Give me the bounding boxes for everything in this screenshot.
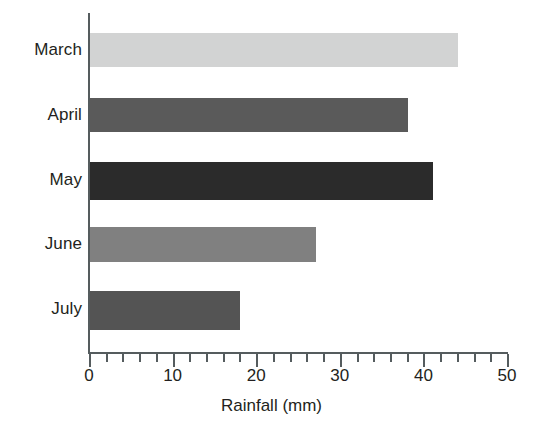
bar-march <box>90 33 458 67</box>
x-tick-44 <box>457 354 459 362</box>
x-tick-8 <box>156 354 158 362</box>
plot-area: MarchAprilMayJuneJuly 01020304050 Rainfa… <box>0 0 543 429</box>
x-tick-34 <box>373 354 375 362</box>
x-tick-42 <box>440 354 442 362</box>
x-tick-2 <box>106 354 108 362</box>
x-tick-14 <box>206 354 208 362</box>
category-label-march-wrap: March <box>0 40 82 60</box>
category-label-march: March <box>6 40 82 60</box>
category-label-may-wrap: May <box>0 170 82 190</box>
category-label-june-wrap: June <box>0 234 82 254</box>
category-label-june: June <box>6 234 82 254</box>
x-tick-28 <box>323 354 325 362</box>
x-tick-38 <box>407 354 409 362</box>
x-tick-label-20: 20 <box>226 366 286 386</box>
category-label-may: May <box>6 170 82 190</box>
rainfall-bar-chart: MarchAprilMayJuneJuly 01020304050 Rainfa… <box>0 0 543 429</box>
bar-april <box>90 98 408 132</box>
x-tick-label-0: 0 <box>59 366 119 386</box>
x-axis-line <box>88 352 508 354</box>
x-tick-label-10: 10 <box>143 366 203 386</box>
x-tick-label-30: 30 <box>310 366 370 386</box>
bar-june <box>90 227 316 262</box>
x-tick-12 <box>189 354 191 362</box>
x-axis-title: Rainfall (mm) <box>0 396 543 416</box>
x-tick-16 <box>223 354 225 362</box>
bar-july <box>90 291 240 330</box>
category-label-april-wrap: April <box>0 105 82 125</box>
category-label-july-wrap: July <box>0 299 82 319</box>
x-tick-label-50: 50 <box>477 366 537 386</box>
x-tick-32 <box>357 354 359 362</box>
x-tick-26 <box>306 354 308 362</box>
x-tick-46 <box>474 354 476 362</box>
x-tick-6 <box>139 354 141 362</box>
category-label-july: July <box>6 299 82 319</box>
x-tick-18 <box>239 354 241 362</box>
x-tick-24 <box>290 354 292 362</box>
x-tick-label-40: 40 <box>393 366 453 386</box>
x-tick-22 <box>273 354 275 362</box>
x-tick-4 <box>122 354 124 362</box>
x-tick-36 <box>390 354 392 362</box>
x-tick-48 <box>490 354 492 362</box>
bar-may <box>90 162 433 200</box>
category-label-april: April <box>6 105 82 125</box>
